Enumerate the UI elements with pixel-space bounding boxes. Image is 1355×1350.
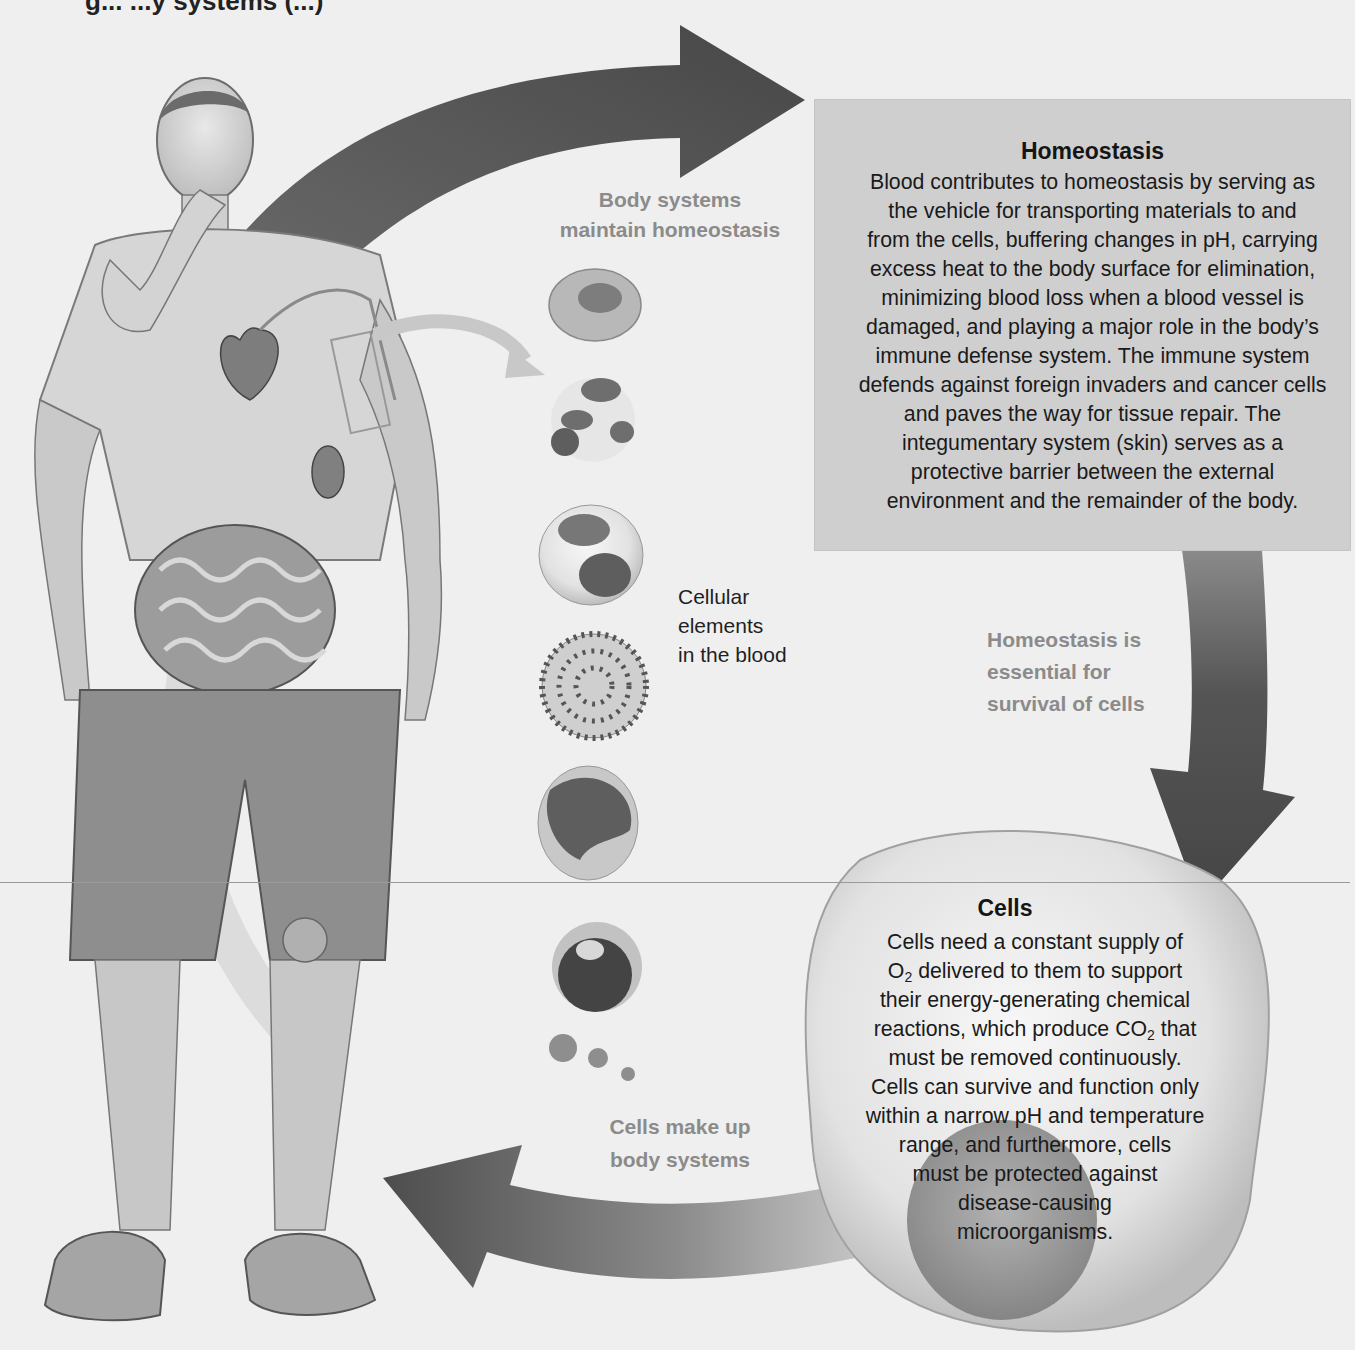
blood-cell-lymphocyte: [552, 922, 642, 1012]
homeostasis-line: minimizing blood loss when a blood vesse…: [825, 284, 1355, 313]
homeostasis-line: immune defense system. The immune system: [825, 342, 1355, 371]
cells-line: must be protected against: [845, 1160, 1225, 1189]
homeostasis-line: from the cells, buffering changes in pH,…: [825, 226, 1355, 255]
label-line: Body systems: [540, 185, 800, 215]
homeostasis-line: the vehicle for transporting materials t…: [825, 197, 1355, 226]
homeostasis-line: damaged, and playing a major role in the…: [825, 313, 1355, 342]
cells-line: microorganisms.: [845, 1218, 1225, 1247]
homeostasis-description: Blood contributes to homeostasis by serv…: [825, 168, 1355, 516]
cells-title: Cells: [940, 895, 1070, 922]
homeostasis-line: defends against foreign invaders and can…: [825, 371, 1355, 400]
sandal-left: [45, 1232, 165, 1320]
o2-symbol: O: [888, 959, 905, 983]
cells-line: disease-causing: [845, 1189, 1225, 1218]
cells-line: Cells need a constant supply of: [845, 928, 1225, 957]
homeostasis-line: Blood contributes to homeostasis by serv…: [825, 168, 1355, 197]
homeostasis-line: environment and the remainder of the bod…: [825, 487, 1355, 516]
label-homeostasis-essential: Homeostasis is essential for survival of…: [987, 624, 1187, 720]
label-cellular-elements: Cellular elements in the blood: [678, 582, 787, 669]
blood-cell-neutrophil: [551, 378, 635, 462]
homeostasis-line: excess heat to the body surface for elim…: [825, 255, 1355, 284]
label-line: Homeostasis is: [987, 624, 1187, 656]
cells-line: Cells can survive and function only: [845, 1073, 1225, 1102]
blood-cell-platelets: [549, 1034, 635, 1081]
homeostasis-line: integumentary system (skin) serves as a: [825, 429, 1355, 458]
co2-text: reactions, which produce CO: [874, 1017, 1147, 1041]
cells-description: Cells need a constant supply of O2 deliv…: [845, 928, 1225, 1247]
cells-line: reactions, which produce CO2 that: [845, 1015, 1225, 1044]
blood-cell-erythrocyte: [549, 269, 641, 341]
label-line: body systems: [590, 1143, 770, 1176]
cells-line: range, and furthermore, cells: [845, 1131, 1225, 1160]
sandal-right: [245, 1234, 375, 1315]
label-line: survival of cells: [987, 688, 1187, 720]
figure-title-fragment: g... ...y systems (...): [85, 0, 323, 17]
homeostasis-line: and paves the way for tissue repair. The: [825, 400, 1355, 429]
arrow-homeostasis-to-cells: [1150, 550, 1295, 905]
cells-line: O2 delivered to them to support: [845, 957, 1225, 986]
cells-line-text: delivered to them to support: [912, 959, 1182, 983]
cells-line: must be removed continuously.: [845, 1044, 1225, 1073]
homeostasis-title: Homeostasis: [815, 138, 1355, 165]
label-body-systems-maintain-homeostasis: Body systems maintain homeostasis: [540, 185, 800, 245]
cells-line: within a narrow pH and temperature: [845, 1102, 1225, 1131]
label-line: maintain homeostasis: [540, 215, 800, 245]
label-line: in the blood: [678, 640, 787, 669]
blood-cell-basophil: [542, 634, 646, 738]
blood-cell-monocyte: [538, 766, 638, 880]
blood-cell-eosinophil: [539, 505, 643, 605]
cells-line-text: that: [1155, 1017, 1196, 1041]
label-line: Cellular: [678, 582, 787, 611]
intestines-icon: [135, 525, 335, 695]
label-line: Cells make up: [590, 1110, 770, 1143]
human-figure: [35, 78, 442, 1320]
label-cells-make-up-body-systems: Cells make up body systems: [590, 1110, 770, 1176]
label-line: elements: [678, 611, 787, 640]
page-divider: [0, 882, 1350, 883]
cells-line: their energy-generating chemical: [845, 986, 1225, 1015]
co2-subscript: 2: [1147, 1027, 1155, 1043]
homeostasis-line: protective barrier between the external: [825, 458, 1355, 487]
label-line: essential for: [987, 656, 1187, 688]
